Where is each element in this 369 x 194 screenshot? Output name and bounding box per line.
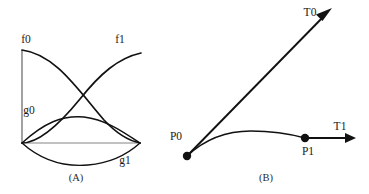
label-f0: f0 bbox=[21, 33, 31, 45]
figure-root: f0 f1 g0 g1 (A) T0 T1 P0 P1 (B) bbox=[0, 0, 369, 194]
p1-point bbox=[301, 134, 309, 142]
label-g1: g1 bbox=[119, 154, 131, 167]
panel-b: T0 T1 P0 P1 (B) bbox=[170, 6, 356, 184]
label-p1: P1 bbox=[302, 145, 314, 157]
panel-a: f0 f1 g0 g1 (A) bbox=[21, 33, 141, 184]
label-p0: P0 bbox=[170, 130, 182, 142]
label-g0: g0 bbox=[23, 104, 35, 117]
p0-point bbox=[183, 152, 191, 160]
label-f1: f1 bbox=[115, 33, 125, 45]
label-t1: T1 bbox=[334, 120, 347, 132]
caption-panel-a: (A) bbox=[69, 172, 84, 184]
t1-arrowhead-icon bbox=[345, 133, 356, 143]
caption-panel-b: (B) bbox=[259, 172, 274, 184]
t0-arrowhead-icon bbox=[316, 8, 332, 21]
bezier-curve bbox=[187, 131, 305, 156]
g0-curve bbox=[22, 117, 140, 143]
diagram-canvas: f0 f1 g0 g1 (A) T0 T1 P0 P1 (B) bbox=[0, 0, 369, 194]
label-t0: T0 bbox=[304, 6, 317, 18]
